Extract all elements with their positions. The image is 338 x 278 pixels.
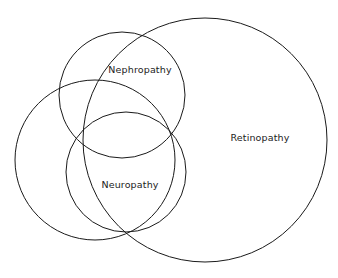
label-retinopathy: Retinopathy [230,132,289,143]
label-nephropathy: Nephropathy [108,64,172,75]
venn-diagram: Nephropathy Neuropathy Retinopathy [0,0,338,278]
label-neuropathy: Neuropathy [101,179,158,190]
venn-diagram-canvas: Nephropathy Neuropathy Retinopathy [0,0,338,278]
